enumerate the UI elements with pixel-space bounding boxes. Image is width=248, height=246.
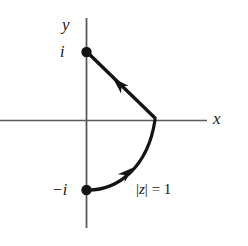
curve-label-equality: = 1 — [148, 181, 171, 197]
unit-circle-arc-path — [86, 120, 155, 190]
point-marker-neg-i — [81, 185, 91, 195]
y-axis-label: y — [62, 16, 70, 33]
point-marker-i — [81, 47, 91, 57]
tick-label-negative-i: −i — [52, 182, 67, 198]
figure-canvas — [0, 0, 248, 246]
x-axis-label: x — [213, 110, 221, 127]
curve-equation-label: |z| = 1 — [136, 182, 171, 197]
complex-plane-figure: y x i −i |z| = 1 — [0, 0, 248, 246]
tick-label-i: i — [60, 44, 64, 60]
